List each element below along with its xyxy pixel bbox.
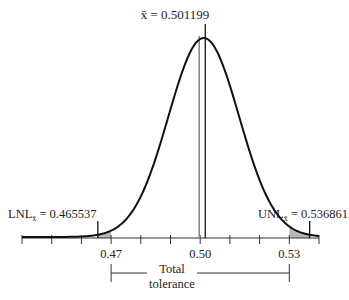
unl-label: UNLx̄ = 0.536861 <box>258 207 348 223</box>
total-tolerance-bracket: Total tolerance <box>111 262 289 291</box>
normal-distribution-chart: 0.470.500.53 x̄ = 0.501199 LNLx̄ = 0.465… <box>0 0 349 300</box>
unl-prefix: UNL <box>258 207 284 221</box>
lnl-value: = 0.465537 <box>36 207 96 221</box>
tick-label: 0.47 <box>100 247 122 261</box>
lnl-prefix: LNL <box>8 207 32 221</box>
mean-label: x̄ = 0.501199 <box>141 7 210 22</box>
tolerance-label-line2: tolerance <box>149 277 195 291</box>
shaded-tails <box>98 226 310 238</box>
x-tick-labels: 0.470.500.53 <box>100 247 300 261</box>
tick-label: 0.53 <box>278 247 300 261</box>
unl-value: = 0.536861 <box>288 207 348 221</box>
tick-label: 0.50 <box>189 247 211 261</box>
tolerance-label-line1: Total <box>159 262 185 276</box>
lnl-label: LNLx̄ = 0.465537 <box>8 207 97 223</box>
